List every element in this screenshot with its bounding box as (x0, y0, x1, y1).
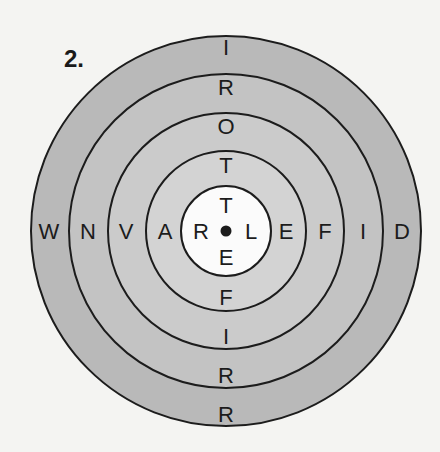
vertical-letter: T (219, 153, 232, 178)
vertical-letter: F (219, 285, 232, 310)
vertical-letter: I (223, 324, 229, 349)
vertical-letter: R (218, 75, 234, 100)
horizontal-letter: R (193, 219, 209, 244)
vertical-letter: E (219, 245, 234, 270)
center-dot-icon (221, 226, 232, 237)
word-target-diagram: IROTTEFIRRWNVARLEFID (0, 0, 440, 452)
horizontal-letter: D (394, 219, 410, 244)
horizontal-letter: N (80, 219, 96, 244)
vertical-letter: I (223, 35, 229, 60)
horizontal-letter: W (39, 219, 60, 244)
horizontal-letter: E (279, 219, 294, 244)
horizontal-letter: V (119, 219, 134, 244)
horizontal-letter: F (318, 219, 331, 244)
horizontal-letter: I (360, 219, 366, 244)
horizontal-letter: L (245, 219, 257, 244)
vertical-letter: T (219, 193, 232, 218)
horizontal-letter: A (158, 219, 173, 244)
vertical-letter: O (217, 114, 234, 139)
vertical-letter: R (218, 402, 234, 427)
vertical-letter: R (218, 363, 234, 388)
